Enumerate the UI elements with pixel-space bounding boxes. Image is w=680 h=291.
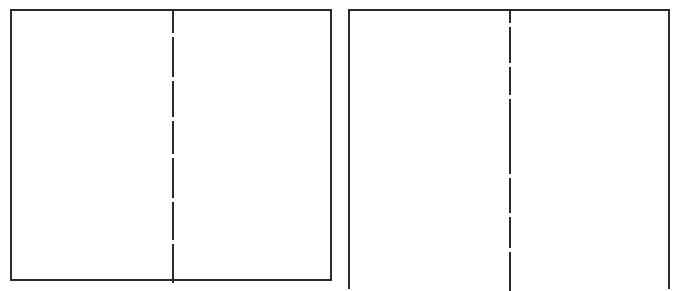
fold-line-dash: [172, 81, 174, 117]
fold-line-dash: [172, 158, 174, 198]
fold-line-dash: [172, 37, 174, 77]
fold-line-dash: [509, 178, 511, 213]
dashed-fold-line: [172, 11, 174, 279]
fold-line-dash: [172, 11, 174, 33]
dashed-fold-line: [509, 11, 511, 289]
fold-line-dash: [509, 11, 511, 23]
fold-line-dash: [172, 244, 174, 283]
right-panel: [348, 9, 670, 289]
fold-line-dash: [509, 252, 511, 291]
fold-line-dash: [172, 121, 174, 154]
fold-line-dash: [509, 217, 511, 248]
fold-line-dash: [509, 99, 511, 174]
fold-line-dash: [509, 27, 511, 63]
fold-line-dash: [509, 67, 511, 95]
fold-line-dash: [172, 202, 174, 240]
left-panel: [10, 9, 332, 281]
